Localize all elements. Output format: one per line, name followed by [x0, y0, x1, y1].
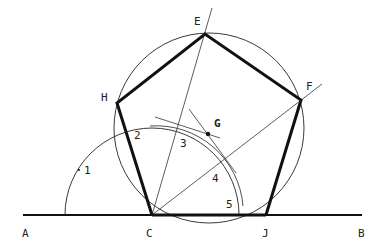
inner-arc [150, 126, 243, 206]
arc-number-1: 1 [84, 164, 91, 177]
label-h: H [101, 91, 108, 104]
arc-number-3: 3 [180, 137, 187, 150]
arc-tick-1 [78, 169, 80, 171]
point-g-dot [206, 132, 210, 136]
label-j: J [262, 227, 269, 240]
label-g: G [214, 117, 221, 130]
label-a: A [22, 227, 29, 240]
label-b: B [358, 227, 365, 240]
arc-number-2: 2 [134, 129, 141, 142]
line-c-e [152, 8, 212, 215]
arc-number-5: 5 [226, 198, 233, 211]
circumcircle [114, 33, 304, 223]
arc-number-4: 4 [212, 172, 219, 185]
pentagon-construction-diagram: A B C J E F H G 1 2 3 4 5 [0, 0, 388, 243]
label-e: E [194, 15, 201, 28]
label-f: F [306, 80, 313, 93]
diagram-canvas: A B C J E F H G 1 2 3 4 5 [0, 0, 388, 243]
bisector-line-1 [155, 117, 220, 138]
label-c: C [146, 227, 153, 240]
pentagon-edges [117, 34, 301, 215]
bisector-line-2 [189, 109, 236, 173]
